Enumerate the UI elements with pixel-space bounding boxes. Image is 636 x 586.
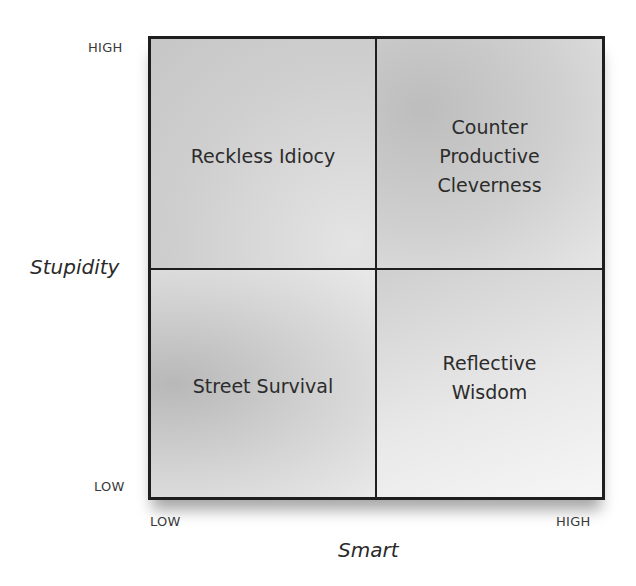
quadrant-counter-productive-cleverness: Counter Productive Cleverness <box>377 39 602 268</box>
quadrant-label: Street Survival <box>193 372 333 401</box>
x-axis-low-tick: LOW <box>150 514 181 529</box>
label-line: Productive <box>437 142 541 171</box>
quadrant-label: Reflective Wisdom <box>443 349 537 407</box>
quadrant-label: Counter Productive Cleverness <box>437 113 541 200</box>
quadrant-reckless-idiocy: Reckless Idiocy <box>151 39 375 268</box>
y-axis-high-tick: HIGH <box>88 40 123 55</box>
x-axis-high-tick: HIGH <box>556 514 591 529</box>
label-line: Wisdom <box>443 378 537 407</box>
quadrant-label: Reckless Idiocy <box>191 142 336 171</box>
label-line: Cleverness <box>437 171 541 200</box>
label-line: Counter <box>437 113 541 142</box>
horizontal-divider <box>151 268 602 270</box>
label-line: Reflective <box>443 349 537 378</box>
y-axis-title: Stupidity <box>30 255 119 279</box>
quadrant-street-survival: Street Survival <box>151 270 375 497</box>
quadrant-reflective-wisdom: Reflective Wisdom <box>377 270 602 497</box>
y-axis-low-tick: LOW <box>94 479 125 494</box>
quadrant-matrix: Reckless Idiocy Counter Productive Cleve… <box>148 36 605 500</box>
x-axis-title: Smart <box>338 538 399 562</box>
